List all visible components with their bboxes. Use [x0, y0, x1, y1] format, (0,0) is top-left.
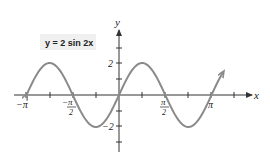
svg-text:2: 2	[69, 108, 73, 117]
chart: y = 2 sin 2x x y −π −π 2 π 2 π 2	[0, 0, 270, 160]
y-tick-label-2: 2	[108, 58, 113, 69]
svg-text:y = 2 sin 2x: y = 2 sin 2x	[45, 38, 93, 48]
chart-title: y = 2 sin 2x	[40, 34, 96, 50]
svg-text:−π: −π	[62, 97, 73, 107]
y-axis-label: y	[114, 16, 120, 28]
svg-text:2: 2	[162, 108, 166, 117]
x-tick-label-neg-pi: −π	[16, 99, 29, 110]
x-tick-label-neg-half-pi: −π 2	[62, 97, 76, 117]
svg-text:π: π	[161, 97, 166, 107]
x-axis-label: x	[253, 89, 259, 101]
